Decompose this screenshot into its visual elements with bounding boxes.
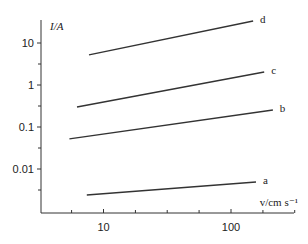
y-axis-title: I/A: [49, 20, 64, 32]
series-group: abcd: [69, 13, 285, 195]
y-tick-label: 0.1: [19, 121, 34, 133]
x-tick-label: 100: [222, 221, 240, 233]
series-line-c: [77, 72, 264, 107]
series-line-a: [87, 182, 256, 195]
series-label-c: c: [271, 64, 276, 76]
series-line-d: [89, 21, 253, 55]
series-label-d: d: [260, 13, 266, 25]
x-axis-title: v/cm s⁻¹: [260, 196, 298, 208]
series-label-b: b: [280, 102, 286, 114]
series-label-a: a: [263, 174, 268, 186]
y-tick-label: 10: [22, 37, 34, 49]
axes: [41, 20, 294, 213]
x-tick-label: 10: [97, 221, 109, 233]
y-tick-label: 1: [28, 79, 34, 91]
y-tick-label: 0.01: [13, 163, 34, 175]
y-ticks: 1010.10.01: [13, 37, 41, 190]
series-line-b: [69, 110, 273, 139]
chart: 10100 1010.10.01 abcd I/A v/cm s⁻¹: [0, 0, 308, 244]
